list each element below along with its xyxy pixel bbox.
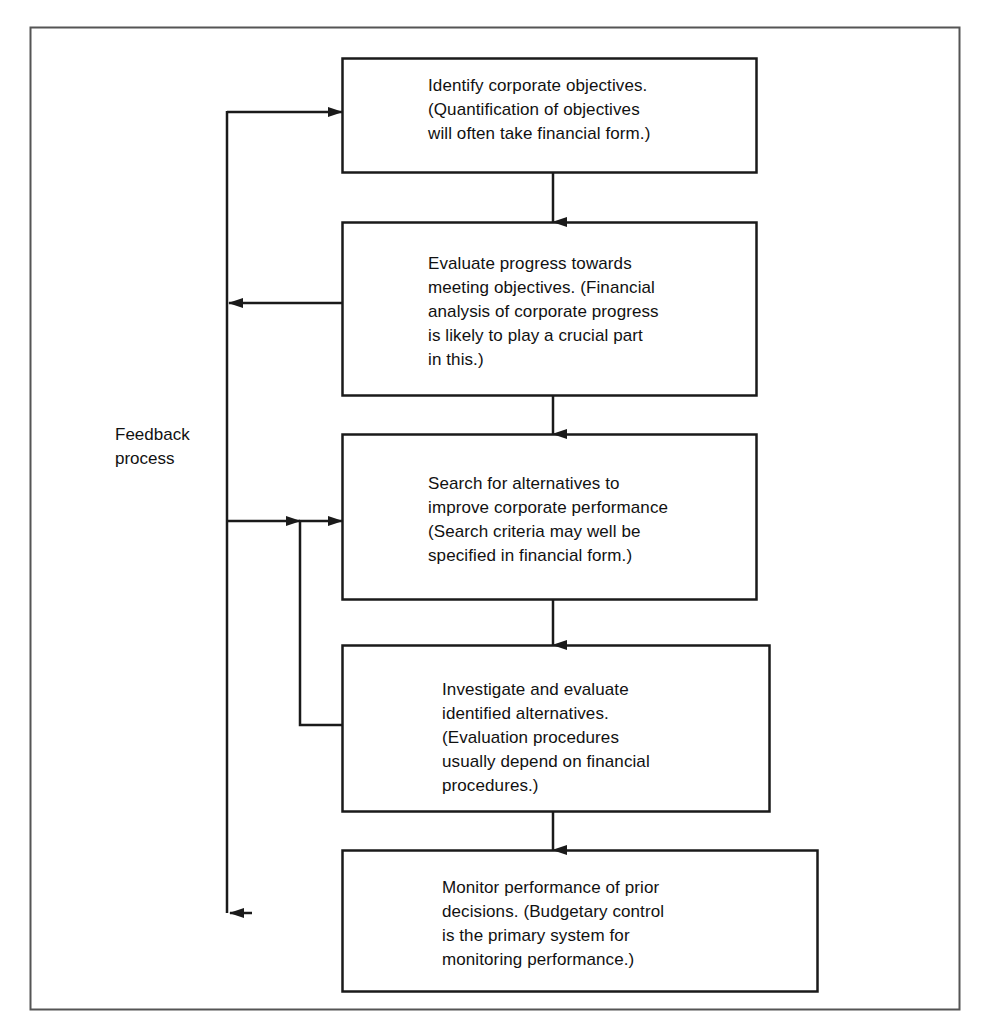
node-label-2: Evaluate progress towards meeting object… — [428, 252, 758, 372]
node-label-5: Monitor performance of prior decisions. … — [442, 876, 782, 972]
feedback-node4-to-node3 — [300, 521, 342, 725]
feedback-process-label: Feedback process — [115, 423, 245, 471]
node-label-4: Investigate and evaluate identified alte… — [442, 678, 772, 798]
node-label-1: Identify corporate objectives. (Quantifi… — [428, 74, 758, 146]
node-label-3: Search for alternatives to improve corpo… — [428, 472, 758, 568]
flowchart-canvas: Identify corporate objectives. (Quantifi… — [0, 0, 986, 1033]
